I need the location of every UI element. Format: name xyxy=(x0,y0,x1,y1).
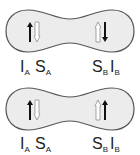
label-S-B: SB xyxy=(92,135,108,154)
panel-top-labels: IA SA SB IB xyxy=(20,58,120,77)
label-S-B: SB xyxy=(92,58,108,77)
label-I-B: IB xyxy=(110,135,120,154)
double-well-shape xyxy=(6,88,134,130)
label-S-A: SA xyxy=(35,58,52,77)
label-I-A: IA xyxy=(20,135,30,154)
panel-top xyxy=(6,10,134,52)
label-I-B: IB xyxy=(110,58,120,77)
double-well-shape xyxy=(6,10,134,52)
panel-bottom xyxy=(6,88,134,130)
label-S-A: SA xyxy=(35,135,52,154)
diagram-canvas: IA SA SB IB IA SA SB IB xyxy=(0,0,140,155)
label-I-A: IA xyxy=(20,58,30,77)
panel-bottom-labels: IA SA SB IB xyxy=(20,135,120,154)
